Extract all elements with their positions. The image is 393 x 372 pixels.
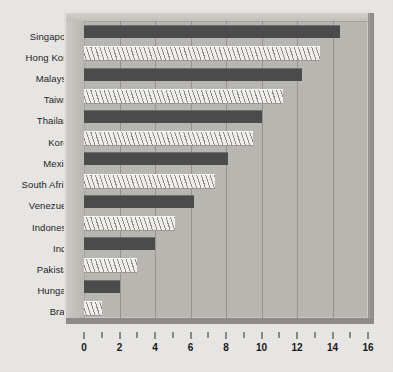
bar	[84, 46, 320, 61]
axis-tick-major	[226, 332, 227, 339]
axis-tick-label: 6	[188, 342, 194, 353]
axis-tick-label: 0	[81, 342, 87, 353]
axis-tick-minor	[172, 332, 173, 338]
value-axis: 0246810121416	[84, 327, 374, 372]
axis-tick-minor	[137, 332, 138, 338]
bar	[84, 68, 302, 81]
axis-tick-major	[297, 332, 298, 339]
bar	[84, 216, 175, 231]
gridline	[297, 21, 298, 318]
frame-highlight-left	[64, 11, 66, 324]
frame-bevel-bottom	[64, 318, 374, 324]
bar	[84, 89, 283, 104]
axis-tick-major	[368, 332, 369, 339]
bar	[84, 25, 340, 38]
gridline	[262, 21, 263, 318]
axis-tick-major	[119, 332, 120, 339]
bar	[84, 301, 102, 316]
axis-tick-minor	[101, 332, 102, 338]
axis-tick-major	[84, 332, 85, 339]
bar	[84, 258, 137, 273]
axis-tick-minor	[243, 332, 244, 338]
gridline	[226, 21, 227, 318]
chart-title	[0, 0, 393, 6]
bar	[84, 280, 120, 293]
axis-tick-major	[155, 332, 156, 339]
axis-tick-label: 12	[291, 342, 302, 353]
axis-tick-minor	[314, 332, 315, 338]
gridline	[191, 21, 192, 318]
axis-tick-major	[190, 332, 191, 339]
axis-tick-minor	[279, 332, 280, 338]
axis-tick-major	[332, 332, 333, 339]
frame-bevel-right	[368, 11, 374, 324]
axis-tick-label: 10	[256, 342, 267, 353]
gridline	[333, 21, 334, 318]
frame-highlight-top	[64, 11, 374, 13]
axis-tick-minor	[208, 332, 209, 338]
axis-tick-label: 14	[327, 342, 338, 353]
bar	[84, 152, 228, 165]
axis-tick-label: 16	[362, 342, 373, 353]
bar	[84, 174, 215, 189]
frame-bevel-left	[64, 11, 84, 324]
bar-chart: SingaporeHong KongMalaysiaTaiwanThailand…	[0, 0, 393, 372]
plot-area	[84, 21, 368, 318]
axis-tick-label: 4	[152, 342, 158, 353]
bar	[84, 131, 253, 146]
bar	[84, 237, 155, 250]
bar	[84, 110, 262, 123]
axis-tick-minor	[350, 332, 351, 338]
plot-frame	[64, 11, 374, 324]
axis-tick-major	[261, 332, 262, 339]
axis-tick-label: 2	[117, 342, 123, 353]
bar	[84, 195, 194, 208]
axis-tick-label: 8	[223, 342, 229, 353]
gridline	[155, 21, 156, 318]
